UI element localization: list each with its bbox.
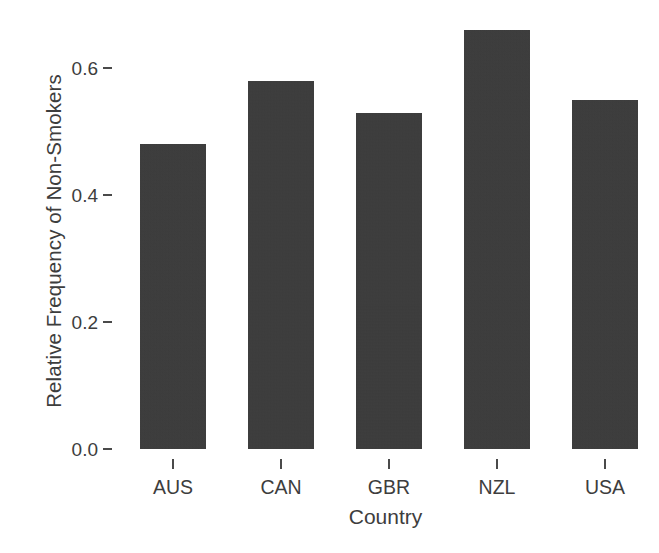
y-tick-mark [103,321,112,323]
x-tick-mark [496,459,498,469]
x-tick-mark [280,459,282,469]
x-tick-mark [388,459,390,469]
y-axis-title: Relative Frequency of Non-Smokers [38,41,70,441]
y-tick-mark [103,448,112,450]
bar-can[interactable] [248,81,314,449]
plot-area [116,8,656,449]
x-axis-title: Country [0,506,659,527]
bar-chart-figure: Relative Frequency of Non-Smokers 0.60.4… [0,0,659,553]
x-tick-label-nzl: NZL [479,478,516,498]
y-tick-mark [103,194,112,196]
x-tick-label-aus: AUS [153,478,193,498]
y-tick-label: 0.0 [46,440,98,459]
bar-gbr[interactable] [356,113,422,449]
x-tick-mark [172,459,174,469]
x-tick-label-usa: USA [585,478,625,498]
x-axis-title-text: Country [349,505,423,528]
y-tick-label: 0.2 [46,313,98,332]
y-tick-label: 0.4 [46,186,98,205]
y-tick-mark [103,67,112,69]
bar-nzl[interactable] [464,30,530,449]
x-tick-label-can: CAN [260,478,301,498]
bar-usa[interactable] [572,100,638,449]
bar-aus[interactable] [140,144,206,449]
x-tick-mark [604,459,606,469]
y-tick-label: 0.6 [46,59,98,78]
x-tick-label-gbr: GBR [368,478,410,498]
